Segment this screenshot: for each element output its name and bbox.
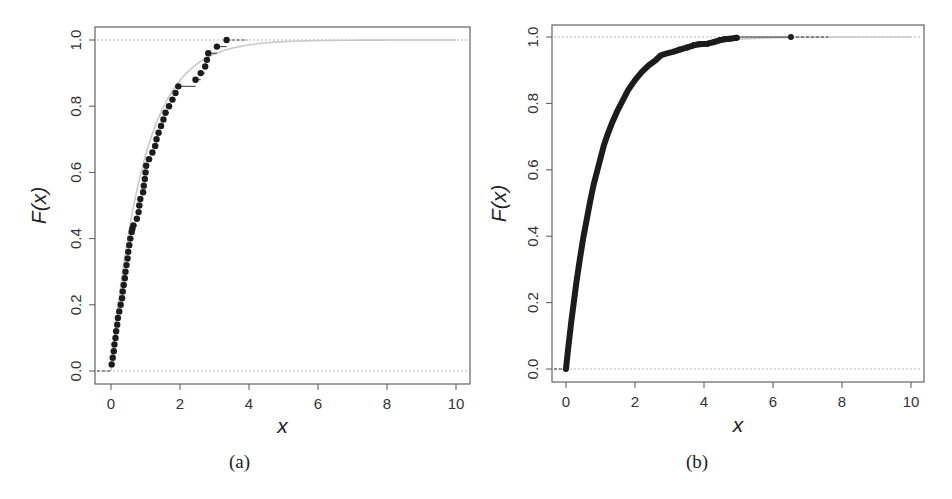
- x-tick-label: 8: [838, 393, 846, 410]
- y-tick-label: 0.0: [67, 361, 84, 382]
- x-tick-label: 2: [176, 395, 184, 412]
- data-point: [727, 36, 733, 42]
- data-point: [124, 255, 130, 261]
- chart-panel-b: 02468100.00.20.40.60.81.0xF(x) (b): [476, 0, 952, 499]
- x-tick-label: 0: [107, 395, 115, 412]
- y-tick-label: 0.2: [67, 294, 84, 315]
- data-point: [135, 209, 141, 215]
- data-point: [134, 216, 140, 222]
- data-point: [204, 57, 210, 63]
- chart-panel-a: 02468100.00.20.40.60.81.0xF(x) (a): [0, 0, 476, 499]
- x-tick-label: 4: [245, 395, 253, 412]
- data-point: [162, 110, 168, 116]
- plot-frame: [95, 27, 470, 384]
- x-axis-title: x: [276, 414, 289, 437]
- data-point: [122, 269, 128, 275]
- data-point: [119, 295, 125, 301]
- data-point: [108, 361, 114, 367]
- panel-caption-a: (a): [229, 451, 250, 473]
- x-tick-label: 10: [903, 393, 920, 410]
- data-point: [223, 37, 229, 43]
- x-tick-label: 6: [769, 393, 777, 410]
- data-point: [677, 47, 683, 53]
- data-point: [125, 249, 131, 255]
- plot-frame: [552, 25, 924, 382]
- theoretical-cdf-curve: [566, 37, 911, 369]
- data-point: [202, 63, 208, 69]
- data-point: [711, 39, 717, 45]
- data-point: [717, 37, 723, 43]
- data-point: [141, 182, 147, 188]
- data-point: [115, 315, 121, 321]
- x-tick-label: 4: [700, 393, 708, 410]
- y-tick-label: 0.4: [524, 226, 541, 247]
- x-tick-label: 0: [562, 393, 570, 410]
- ecdf-plot-b: 02468100.00.20.40.60.81.0xF(x): [476, 0, 952, 499]
- data-point: [684, 45, 690, 51]
- data-point: [126, 242, 132, 248]
- y-tick-label: 0.8: [524, 93, 541, 114]
- empirical-cdf-series: [554, 34, 828, 369]
- data-point: [158, 123, 164, 129]
- x-tick-label: 6: [314, 395, 322, 412]
- y-tick-label: 1.0: [524, 27, 541, 48]
- empirical-cdf-series: [97, 37, 247, 371]
- y-axis-title: F(x): [487, 185, 510, 222]
- data-point: [127, 235, 133, 241]
- data-point: [130, 222, 136, 228]
- data-point: [205, 50, 211, 56]
- data-point: [152, 143, 158, 149]
- data-point: [112, 335, 118, 341]
- y-tick-label: 0.0: [524, 359, 541, 380]
- y-tick-label: 0.6: [524, 159, 541, 180]
- data-point: [160, 116, 166, 122]
- y-tick-label: 0.6: [67, 162, 84, 183]
- data-point: [722, 36, 728, 42]
- x-tick-label: 2: [631, 393, 639, 410]
- y-tick-label: 1.0: [67, 30, 84, 51]
- data-point: [214, 43, 220, 49]
- data-point: [192, 77, 198, 83]
- x-axis-title: x: [732, 413, 745, 436]
- data-point: [166, 103, 172, 109]
- data-point: [110, 355, 116, 361]
- x-tick-label: 10: [448, 395, 465, 412]
- data-point: [175, 83, 181, 89]
- y-tick-label: 0.2: [524, 292, 541, 313]
- y-axis-title: F(x): [27, 187, 50, 224]
- data-point: [734, 35, 740, 41]
- x-tick-label: 8: [383, 395, 391, 412]
- data-point: [113, 328, 119, 334]
- data-point: [143, 163, 149, 169]
- data-point: [123, 262, 129, 268]
- data-point: [704, 41, 710, 47]
- data-point: [153, 136, 159, 142]
- data-point: [122, 275, 128, 281]
- data-point: [136, 202, 142, 208]
- data-point: [696, 41, 702, 47]
- data-point: [111, 341, 117, 347]
- data-point: [169, 96, 175, 102]
- ecdf-plot-a: 02468100.00.20.40.60.81.0xF(x): [0, 0, 476, 499]
- data-point: [114, 321, 120, 327]
- data-point: [121, 282, 127, 288]
- data-point: [120, 288, 126, 294]
- panel-caption-b: (b): [686, 451, 708, 473]
- data-point: [116, 308, 122, 314]
- data-point: [142, 176, 148, 182]
- data-point: [140, 189, 146, 195]
- y-tick-label: 0.4: [67, 228, 84, 249]
- theoretical-cdf-curve: [111, 40, 456, 371]
- data-point: [142, 169, 148, 175]
- data-point: [155, 129, 161, 135]
- data-point: [117, 302, 123, 308]
- data-point: [172, 90, 178, 96]
- data-point: [149, 149, 155, 155]
- data-point: [146, 156, 152, 162]
- y-tick-label: 0.8: [67, 96, 84, 117]
- data-point: [691, 42, 697, 48]
- data-point: [111, 348, 117, 354]
- data-point: [198, 70, 204, 76]
- data-point: [137, 196, 143, 202]
- dense-ecdf-curve: [566, 38, 737, 369]
